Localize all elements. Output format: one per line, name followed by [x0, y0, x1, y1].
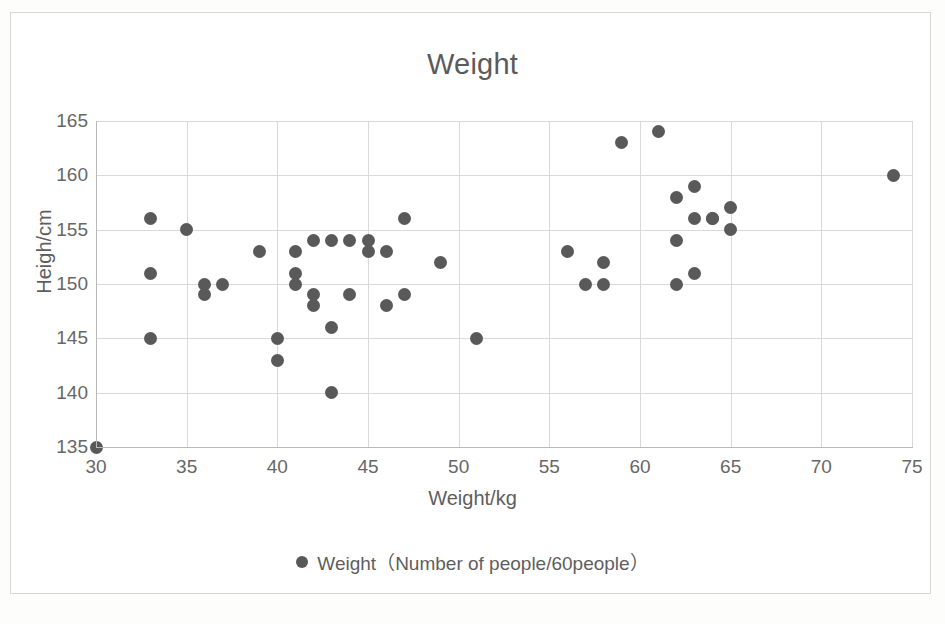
- scatter-point: [144, 332, 157, 345]
- gridline-horizontal: [96, 121, 912, 122]
- scatter-point: [434, 256, 447, 269]
- x-axis-tick-label: 45: [338, 456, 398, 478]
- x-axis-line: [96, 447, 913, 448]
- scatter-point: [271, 354, 284, 367]
- gridline-vertical: [277, 121, 278, 447]
- x-axis-tick-label: 35: [157, 456, 217, 478]
- y-axis-tick-label: 145: [42, 327, 88, 349]
- gridline-vertical: [187, 121, 188, 447]
- gridline-vertical: [368, 121, 369, 447]
- y-axis-tick-label: 135: [42, 436, 88, 458]
- scatter-point: [253, 245, 266, 258]
- scatter-point: [670, 191, 683, 204]
- x-axis-tick-label: 60: [610, 456, 670, 478]
- gridline-horizontal: [96, 175, 912, 176]
- scatter-point: [380, 245, 393, 258]
- scatter-point: [652, 125, 665, 138]
- x-axis-tick-label: 50: [429, 456, 489, 478]
- scatter-point: [597, 256, 610, 269]
- x-axis-title: Weight/kg: [0, 487, 945, 510]
- scatter-point: [579, 278, 592, 291]
- x-axis-tick-label: 70: [791, 456, 851, 478]
- scatter-point: [688, 267, 701, 280]
- scatter-point: [362, 245, 375, 258]
- legend-marker-icon: [296, 556, 308, 568]
- chart-title: Weight: [0, 48, 945, 81]
- scatter-point: [561, 245, 574, 258]
- chart-page: Weight 135140145150155160165 30354045505…: [0, 0, 945, 624]
- x-axis-tick-label: 55: [519, 456, 579, 478]
- gridline-horizontal: [96, 338, 912, 339]
- gridline-vertical: [821, 121, 822, 447]
- y-axis-tick-label: 140: [42, 382, 88, 404]
- x-axis-tick-label: 65: [701, 456, 761, 478]
- scatter-point: [670, 278, 683, 291]
- scatter-point: [271, 332, 284, 345]
- x-axis-tick-labels: 30354045505560657075: [96, 456, 913, 482]
- legend-label: Weight（Number of people/60people）: [317, 548, 648, 575]
- y-axis-tick-label: 165: [42, 110, 88, 132]
- y-axis-tick-label: 160: [42, 164, 88, 186]
- y-axis-title: Heigh/cm: [33, 192, 56, 312]
- scatter-point: [670, 234, 683, 247]
- gridline-vertical: [459, 121, 460, 447]
- plot-area: [96, 121, 912, 447]
- gridline-vertical: [549, 121, 550, 447]
- scatter-point: [688, 180, 701, 193]
- gridline-horizontal: [96, 230, 912, 231]
- scatter-point: [597, 278, 610, 291]
- scatter-point: [144, 267, 157, 280]
- scatter-point: [398, 212, 411, 225]
- x-axis-tick-label: 30: [66, 456, 126, 478]
- x-axis-tick-label: 40: [247, 456, 307, 478]
- gridline-vertical: [640, 121, 641, 447]
- scatter-point: [216, 278, 229, 291]
- y-axis-line: [96, 121, 97, 448]
- x-axis-tick-label: 75: [882, 456, 942, 478]
- gridline-vertical: [731, 121, 732, 447]
- scatter-point: [289, 245, 302, 258]
- chart-legend: Weight（Number of people/60people）: [0, 548, 945, 575]
- scatter-point: [380, 299, 393, 312]
- gridline-horizontal: [96, 393, 912, 394]
- gridline-vertical: [912, 121, 913, 447]
- scatter-point: [289, 278, 302, 291]
